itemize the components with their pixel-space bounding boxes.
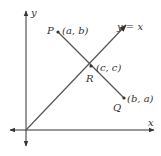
point-r xyxy=(89,64,92,67)
x-axis-label: x xyxy=(148,117,154,128)
point-r-coords: (c, c) xyxy=(96,62,121,73)
point-q-name: Q xyxy=(113,102,121,113)
point-r-name: R xyxy=(85,73,94,84)
reflection-diagram: y x y = x P (a, b) R (c, c) Q (b, a) xyxy=(0,0,161,156)
line-label: y = x xyxy=(116,21,143,32)
point-q xyxy=(122,96,125,99)
point-p-name: P xyxy=(46,25,54,36)
point-p xyxy=(56,30,59,33)
point-q-coords: (b, a) xyxy=(127,93,154,104)
y-axis-label: y xyxy=(30,7,37,18)
line-y-equals-x xyxy=(26,25,126,130)
point-p-coords: (a, b) xyxy=(62,25,89,36)
